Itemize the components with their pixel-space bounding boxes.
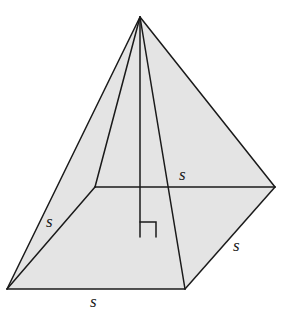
label-front-edge: s [90, 292, 97, 311]
label-right-edge: s [233, 236, 240, 255]
pyramid-diagram: s s s s [0, 0, 291, 328]
label-back-edge: s [179, 165, 186, 184]
pyramid-svg: s s s s [0, 0, 291, 328]
label-left-edge: s [46, 212, 53, 231]
